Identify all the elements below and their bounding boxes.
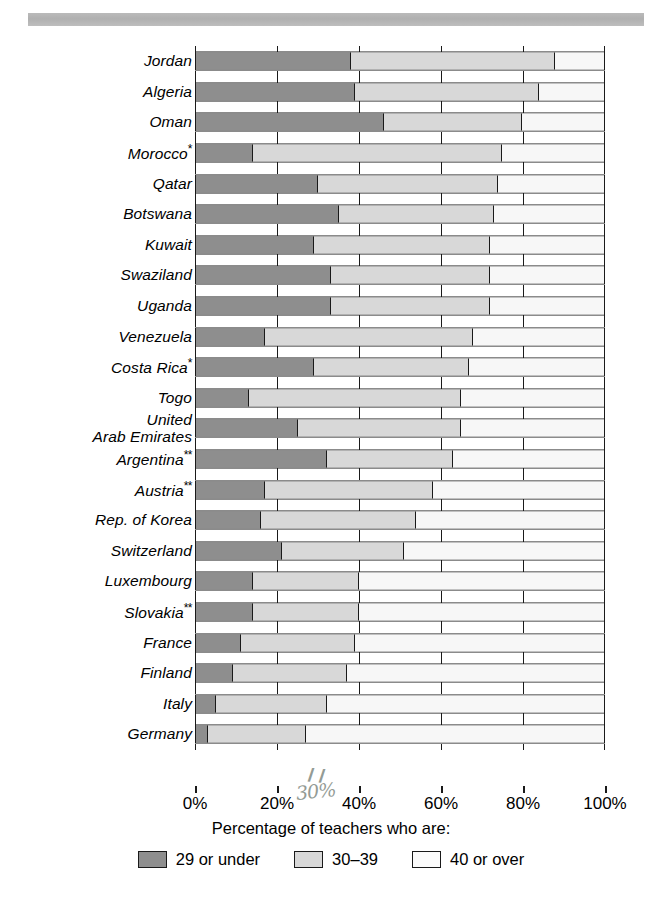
chart-row: Swaziland bbox=[0, 260, 662, 291]
stacked-bar bbox=[195, 52, 605, 71]
bar-segment-1 bbox=[196, 512, 261, 529]
bar-segment-2 bbox=[355, 83, 539, 100]
bar-segment-3 bbox=[461, 420, 604, 437]
axis-tick bbox=[195, 786, 197, 793]
stacked-bar bbox=[195, 327, 605, 346]
row-label-text: Slovakia bbox=[124, 604, 183, 621]
bar-segment-3 bbox=[498, 175, 604, 192]
bar-segment-2 bbox=[241, 634, 355, 651]
axis-tick bbox=[277, 786, 279, 793]
bar-segment-3 bbox=[347, 665, 604, 682]
axis-tick-label: 100% bbox=[583, 794, 626, 814]
row-label-text: Kuwait bbox=[145, 236, 192, 253]
bar-segment-2 bbox=[253, 573, 359, 590]
bar-segment-3 bbox=[494, 206, 604, 223]
row-label-text: Finland bbox=[140, 664, 192, 681]
bar-segment-3 bbox=[416, 512, 604, 529]
stacked-bar bbox=[195, 205, 605, 224]
row-label-uganda: Uganda bbox=[137, 298, 192, 314]
chart-row: Qatar bbox=[0, 168, 662, 199]
bar-segment-2 bbox=[314, 236, 489, 253]
stacked-bar bbox=[195, 297, 605, 316]
chart-page: JordanAlgeriaOmanMorocco*QatarBotswanaKu… bbox=[0, 0, 662, 905]
bar-segment-1 bbox=[196, 359, 314, 376]
chart-row: UnitedArab Emirates bbox=[0, 413, 662, 444]
footnote-marker: * bbox=[188, 357, 192, 371]
row-label-text: Botswana bbox=[123, 205, 192, 222]
bar-segment-1 bbox=[196, 481, 265, 498]
row-label-text: Costa Rica bbox=[111, 360, 188, 377]
row-label-algeria: Algeria bbox=[143, 84, 192, 100]
stacked-bar bbox=[195, 541, 605, 560]
chart-row: Luxembourg bbox=[0, 566, 662, 597]
stacked-bar bbox=[195, 602, 605, 621]
bar-segment-2 bbox=[253, 145, 502, 162]
bar-segment-1 bbox=[196, 603, 253, 620]
row-label-text: Rep. of Korea bbox=[95, 511, 192, 528]
axis-tick bbox=[359, 786, 361, 793]
row-label-jordan: Jordan bbox=[144, 53, 192, 69]
row-label-text: Austria bbox=[135, 482, 184, 499]
axis-title: Percentage of teachers who are: bbox=[0, 819, 662, 838]
bar-segment-1 bbox=[196, 298, 331, 315]
row-label-slovakia: Slovakia** bbox=[124, 602, 192, 621]
bar-segment-3 bbox=[555, 53, 604, 70]
tick-mark bbox=[359, 744, 360, 750]
bar-segment-1 bbox=[196, 328, 265, 345]
bar-segment-2 bbox=[351, 53, 555, 70]
bar-segment-1 bbox=[196, 175, 318, 192]
bar-segment-2 bbox=[331, 267, 490, 284]
bar-segment-3 bbox=[355, 634, 604, 651]
row-label-botswana: Botswana bbox=[123, 206, 192, 222]
bar-segment-3 bbox=[469, 359, 604, 376]
legend-item: 30–39 bbox=[294, 850, 378, 869]
bar-segment-2 bbox=[249, 389, 461, 406]
row-label-kuwait: Kuwait bbox=[145, 237, 192, 253]
bar-segment-3 bbox=[522, 114, 604, 131]
stacked-bar bbox=[195, 266, 605, 285]
stacked-bar bbox=[195, 144, 605, 163]
row-label-line1: United bbox=[93, 412, 193, 428]
chart-row: Jordan bbox=[0, 46, 662, 77]
row-label-text: Uganda bbox=[137, 297, 192, 314]
chart-row: Italy bbox=[0, 688, 662, 719]
row-label-text: Morocco bbox=[128, 146, 188, 163]
chart-row: Argentina** bbox=[0, 444, 662, 475]
bar-segment-2 bbox=[208, 726, 306, 743]
bar-segment-3 bbox=[490, 267, 604, 284]
row-label-germany: Germany bbox=[128, 726, 192, 742]
row-label-text: Swaziland bbox=[120, 266, 192, 283]
chart-row: Morocco* bbox=[0, 138, 662, 169]
stacked-bar bbox=[195, 358, 605, 377]
row-label-finland: Finland bbox=[140, 665, 192, 681]
row-label-text: Germany bbox=[128, 725, 192, 742]
bar-segment-3 bbox=[306, 726, 604, 743]
tick-mark bbox=[523, 744, 524, 750]
chart-row: Uganda bbox=[0, 291, 662, 322]
footnote-marker: * bbox=[188, 142, 192, 156]
bar-segment-1 bbox=[196, 695, 216, 712]
bar-segment-3 bbox=[359, 603, 604, 620]
bar-segment-1 bbox=[196, 542, 282, 559]
row-label-qatar: Qatar bbox=[153, 176, 192, 192]
stacked-bar bbox=[195, 174, 605, 193]
bar-segment-1 bbox=[196, 451, 327, 468]
bar-segment-2 bbox=[314, 359, 469, 376]
axis-tick bbox=[441, 786, 443, 793]
row-label-text: France bbox=[143, 633, 192, 650]
bar-segment-1 bbox=[196, 53, 351, 70]
axis-tick-label: 20% bbox=[260, 794, 294, 814]
bar-segment-1 bbox=[196, 634, 241, 651]
chart-row: Finland bbox=[0, 658, 662, 689]
chart-row: Germany bbox=[0, 719, 662, 750]
footnote-marker: ** bbox=[184, 448, 192, 462]
bar-segment-2 bbox=[253, 603, 359, 620]
bar-segment-3 bbox=[433, 481, 604, 498]
bar-segment-2 bbox=[384, 114, 523, 131]
bar-segment-3 bbox=[490, 236, 604, 253]
bar-segment-2 bbox=[261, 512, 416, 529]
stacked-bar bbox=[195, 450, 605, 469]
axis-tick bbox=[605, 786, 607, 793]
bar-segment-3 bbox=[502, 145, 604, 162]
bar-segment-1 bbox=[196, 83, 355, 100]
